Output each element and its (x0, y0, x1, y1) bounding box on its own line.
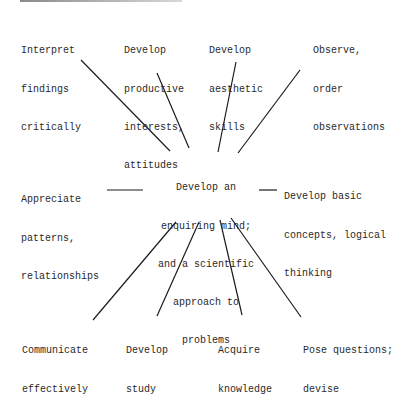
node-line: skills (209, 122, 263, 135)
node-observe: Observe, order observations (313, 20, 385, 147)
node-patterns: Appreciate patterns, relationships (21, 169, 99, 296)
center-line: approach to (150, 297, 262, 310)
node-line: Develop basic (284, 191, 386, 204)
node-concepts: Develop basic concepts, logical thinking (284, 166, 386, 293)
node-interpret: Interpret findings critically (21, 20, 81, 147)
node-line: knowledge (218, 384, 272, 397)
node-line: Develop (209, 45, 263, 58)
node-line: observations (313, 122, 385, 135)
node-line: thinking (284, 268, 386, 281)
node-aesthetic: Develop aesthetic skills (209, 20, 263, 147)
node-line: Appreciate (21, 194, 99, 207)
node-line: concepts, logical (284, 230, 386, 243)
node-line: Observe, (313, 45, 385, 58)
node-line: findings (21, 84, 81, 97)
node-line: Communicate (22, 345, 88, 358)
center-line: and a scientific (150, 259, 262, 272)
node-line: Pose questions; (303, 345, 393, 358)
node-line: effectively (22, 384, 88, 397)
node-communicate: Communicate effectively (22, 320, 88, 401)
node-study: Develop study skills (126, 320, 168, 401)
node-line: Develop (126, 345, 168, 358)
node-line: patterns, (21, 233, 99, 246)
node-line: devise (303, 384, 393, 397)
node-line: interests, (124, 122, 184, 135)
center-line: enquiring mind; (150, 221, 262, 234)
node-line: Interpret (21, 45, 81, 58)
node-line: productive (124, 84, 184, 97)
node-line: attitudes (124, 160, 184, 173)
node-line: relationships (21, 271, 99, 284)
node-pose: Pose questions; devise experiments, inve… (303, 320, 393, 401)
node-productive: Develop productive interests, attitudes (124, 20, 184, 185)
node-line: order (313, 84, 385, 97)
node-line: Develop (124, 45, 184, 58)
node-line: study (126, 384, 168, 397)
node-knowledge: Acquire knowledge (218, 320, 272, 401)
node-line: critically (21, 122, 81, 135)
node-line: aesthetic (209, 84, 263, 97)
node-line: Acquire (218, 345, 272, 358)
